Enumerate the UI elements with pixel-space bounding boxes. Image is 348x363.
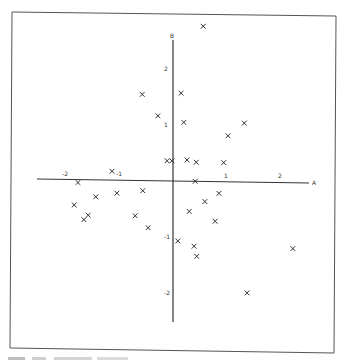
x-marker xyxy=(76,180,81,185)
x-marker xyxy=(175,239,180,244)
x-marker xyxy=(72,203,77,208)
x-marker xyxy=(133,213,138,218)
x-marker xyxy=(114,191,119,196)
x-axis-label: A xyxy=(312,179,317,186)
x-marker xyxy=(179,91,184,96)
x-marker xyxy=(146,225,151,230)
x-marker xyxy=(192,244,197,249)
scatter-plot: -2-11221-1-2AB xyxy=(0,0,348,363)
x-marker xyxy=(86,213,91,218)
y-axis-label: B xyxy=(170,32,174,39)
x-marker xyxy=(82,217,87,222)
x-marker xyxy=(202,199,207,204)
x-marker xyxy=(221,160,226,165)
x-marker xyxy=(187,209,192,214)
x-marker xyxy=(290,246,295,251)
y-tick-label: -2 xyxy=(164,289,170,296)
x-marker xyxy=(93,194,98,199)
x-marker xyxy=(217,191,222,196)
x-marker xyxy=(185,158,190,163)
y-tick-label: 2 xyxy=(164,65,168,72)
x-marker xyxy=(226,133,231,138)
y-tick-label: 1 xyxy=(164,121,168,128)
x-marker xyxy=(110,169,115,174)
x-marker xyxy=(201,24,206,29)
x-marker xyxy=(140,92,145,97)
x-marker xyxy=(165,158,170,163)
x-marker xyxy=(170,158,175,163)
x-marker xyxy=(140,188,145,193)
x-marker xyxy=(194,160,199,165)
x-tick-label: 2 xyxy=(278,172,282,179)
x-marker xyxy=(213,219,218,224)
x-tick-label: -1 xyxy=(116,170,122,177)
x-marker xyxy=(194,254,199,259)
x-marker xyxy=(245,290,250,295)
y-tick-label: -1 xyxy=(164,233,170,240)
x-marker xyxy=(155,113,160,118)
x-marker xyxy=(242,121,247,126)
figure-caption-cropped xyxy=(8,357,128,360)
x-tick-label: -2 xyxy=(62,170,68,177)
x-marker xyxy=(181,120,186,125)
x-tick-label: 1 xyxy=(224,172,228,179)
